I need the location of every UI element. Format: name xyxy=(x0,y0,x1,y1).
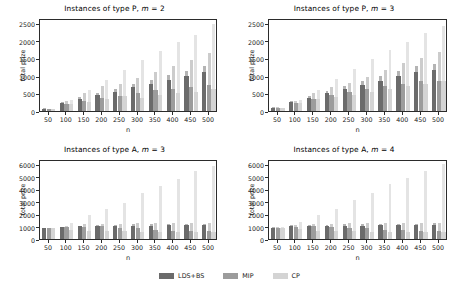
error-bar xyxy=(389,50,392,89)
bar-lds-bs xyxy=(414,72,418,111)
figure-canvas: Instances of type P, m = 205001000150020… xyxy=(0,0,459,292)
bar-mip xyxy=(136,228,140,239)
y-tick-label: 2000 xyxy=(248,38,264,45)
y-tick-label: 6000 xyxy=(248,162,264,169)
y-tick-mark xyxy=(36,112,39,113)
bar-mip xyxy=(383,86,387,111)
error-bar xyxy=(212,166,215,232)
x-tick-mark xyxy=(137,112,138,115)
x-tick-label: 100 xyxy=(60,244,72,251)
error-bar xyxy=(389,184,392,231)
x-tick-mark xyxy=(330,240,331,243)
x-tick-label: 500 xyxy=(202,244,214,251)
x-tick-mark xyxy=(277,240,278,243)
bar-mip xyxy=(419,81,423,111)
bar-cp xyxy=(158,95,162,111)
x-tick-label: 300 xyxy=(131,116,143,123)
x-tick-label: 250 xyxy=(343,244,355,251)
x-tick-mark xyxy=(366,240,367,243)
bar-lds-bs xyxy=(343,226,347,239)
x-tick-mark xyxy=(208,112,209,115)
bar-mip xyxy=(329,227,333,239)
bar-mip xyxy=(64,227,68,239)
x-tick-mark xyxy=(294,240,295,243)
chart-panel-4: Instances of type A, m = 401000200030004… xyxy=(229,145,459,270)
error-bar xyxy=(101,86,104,97)
x-tick-mark xyxy=(438,112,439,115)
error-bar xyxy=(136,78,139,93)
bar-lds-bs xyxy=(167,225,171,239)
x-tick-label: 300 xyxy=(360,244,372,251)
error-bar xyxy=(194,35,197,92)
error-bar xyxy=(105,80,108,100)
x-tick-mark xyxy=(190,112,191,115)
bar-mip xyxy=(100,226,104,239)
y-tick-label: 6000 xyxy=(19,162,35,169)
y-tick-mark xyxy=(265,77,268,78)
x-tick-label: 200 xyxy=(95,244,107,251)
bars-layer xyxy=(269,161,446,239)
bars-layer xyxy=(269,20,446,111)
bar-lds-bs xyxy=(167,80,171,111)
y-tick-label: 0 xyxy=(260,109,264,116)
bar-lds-bs xyxy=(360,85,364,111)
y-axis-label: total prize xyxy=(19,48,26,82)
y-axis-label: total prize xyxy=(248,183,255,217)
panel-title: Instances of type A, m = 4 xyxy=(229,145,459,154)
bar-cp xyxy=(87,231,91,239)
y-tick-label: 1000 xyxy=(248,224,264,231)
bar-mip xyxy=(153,230,157,240)
x-tick-mark xyxy=(420,112,421,115)
bar-mip xyxy=(419,231,423,239)
bar-cp xyxy=(69,104,73,111)
error-bar xyxy=(212,24,215,90)
x-tick-mark xyxy=(330,112,331,115)
bar-lds-bs xyxy=(325,93,329,111)
x-tick-label: 50 xyxy=(273,116,281,123)
bar-cp xyxy=(280,228,284,239)
bar-cp xyxy=(140,98,144,111)
x-tick-label: 450 xyxy=(414,116,426,123)
bar-mip xyxy=(82,101,86,111)
bar-lds-bs xyxy=(131,226,135,239)
error-bar xyxy=(317,90,320,100)
bar-cp xyxy=(194,92,198,111)
y-tick-label: 0 xyxy=(31,109,35,116)
bar-lds-bs xyxy=(396,76,400,111)
x-tick-label: 100 xyxy=(289,244,301,251)
error-bar xyxy=(177,179,180,232)
y-tick-mark xyxy=(36,77,39,78)
bar-lds-bs xyxy=(184,76,188,111)
error-bar xyxy=(353,200,356,231)
y-tick-mark xyxy=(36,240,39,241)
bar-mip xyxy=(383,230,387,240)
y-tick-label: 500 xyxy=(23,91,35,98)
x-tick-mark xyxy=(348,240,349,243)
x-tick-mark xyxy=(65,240,66,243)
bar-mip xyxy=(171,89,175,111)
x-tick-label: 250 xyxy=(113,116,125,123)
bar-cp xyxy=(423,84,427,111)
bar-cp xyxy=(280,108,284,111)
x-tick-label: 350 xyxy=(378,116,390,123)
error-bar xyxy=(159,186,162,232)
bar-mip xyxy=(153,90,157,111)
error-bar xyxy=(190,223,193,232)
bar-mip xyxy=(437,231,441,239)
bar-cp xyxy=(298,103,302,111)
y-axis-label: total prize xyxy=(19,183,26,217)
x-tick-mark xyxy=(101,112,102,115)
y-tick-mark xyxy=(265,165,268,166)
chart-panel-2: Instances of type P, m = 305001000150020… xyxy=(229,4,459,142)
error-bar xyxy=(424,33,427,83)
bar-cp xyxy=(370,92,374,111)
error-bar xyxy=(424,171,427,232)
x-tick-label: 500 xyxy=(432,244,444,251)
x-tick-mark xyxy=(384,240,385,243)
x-tick-mark xyxy=(48,112,49,115)
y-axis-label: total prize xyxy=(248,48,255,82)
x-tick-mark xyxy=(438,240,439,243)
x-tick-label: 50 xyxy=(44,116,52,123)
bar-mip xyxy=(207,85,211,111)
panel-title: Instances of type P, m = 3 xyxy=(229,4,459,13)
